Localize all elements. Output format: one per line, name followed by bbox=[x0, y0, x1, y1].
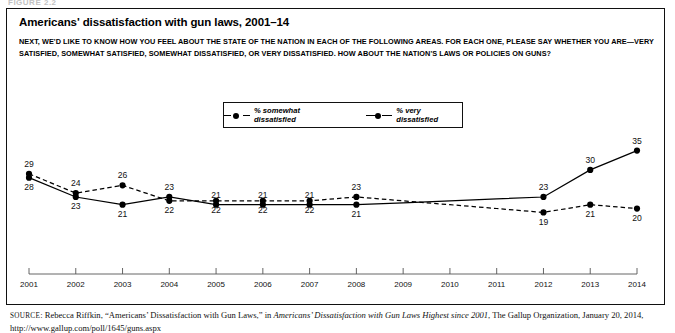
svg-text:28: 28 bbox=[24, 182, 34, 192]
svg-text:20: 20 bbox=[632, 213, 642, 223]
svg-text:2001: 2001 bbox=[20, 280, 38, 289]
svg-text:2006: 2006 bbox=[254, 280, 272, 289]
source-prefix: SOURCE bbox=[10, 312, 40, 320]
svg-text:2010: 2010 bbox=[441, 280, 459, 289]
svg-text:35: 35 bbox=[632, 136, 642, 146]
svg-text:30: 30 bbox=[585, 155, 595, 165]
svg-text:21: 21 bbox=[305, 190, 315, 200]
svg-text:24: 24 bbox=[71, 178, 81, 188]
svg-text:2009: 2009 bbox=[394, 280, 412, 289]
figure-screenshot: FIGURE 2.2 Americans' dissatisfaction wi… bbox=[0, 0, 675, 333]
svg-text:2005: 2005 bbox=[207, 280, 225, 289]
svg-text:2014: 2014 bbox=[628, 280, 646, 289]
svg-text:21: 21 bbox=[352, 209, 362, 219]
svg-text:2008: 2008 bbox=[347, 280, 365, 289]
svg-text:19: 19 bbox=[539, 217, 549, 227]
svg-text:23: 23 bbox=[71, 201, 81, 211]
svg-text:2012: 2012 bbox=[535, 280, 553, 289]
figure-number-label: FIGURE 2.2 bbox=[8, 0, 57, 7]
figure-container: Americans' dissatisfaction with gun laws… bbox=[6, 8, 665, 305]
svg-text:2002: 2002 bbox=[67, 280, 85, 289]
svg-text:23: 23 bbox=[352, 182, 362, 192]
svg-text:2011: 2011 bbox=[488, 280, 506, 289]
svg-text:2013: 2013 bbox=[581, 280, 599, 289]
svg-text:21: 21 bbox=[211, 190, 221, 200]
svg-text:23: 23 bbox=[165, 182, 175, 192]
svg-text:2007: 2007 bbox=[301, 280, 319, 289]
source-note: SOURCE: Rebecca Riffkin, “Americans’ Dis… bbox=[10, 310, 660, 333]
source-text-b: , The Gallup bbox=[488, 310, 531, 320]
svg-text:21: 21 bbox=[258, 190, 268, 200]
svg-text:22: 22 bbox=[165, 205, 175, 215]
svg-text:21: 21 bbox=[585, 209, 595, 219]
svg-text:29: 29 bbox=[24, 159, 34, 169]
svg-text:2003: 2003 bbox=[114, 280, 132, 289]
line-chart-plot: 2001200220032004200520062007200820092010… bbox=[7, 9, 666, 306]
source-publication-title: Americans’ Dissatisfaction with Gun Laws… bbox=[274, 310, 489, 320]
svg-text:23: 23 bbox=[539, 182, 549, 192]
svg-text:2004: 2004 bbox=[160, 280, 178, 289]
svg-text:21: 21 bbox=[118, 209, 128, 219]
svg-text:26: 26 bbox=[118, 170, 128, 180]
source-text-a: : Rebecca Riffkin, “Americans’ Dissatisf… bbox=[40, 310, 273, 320]
